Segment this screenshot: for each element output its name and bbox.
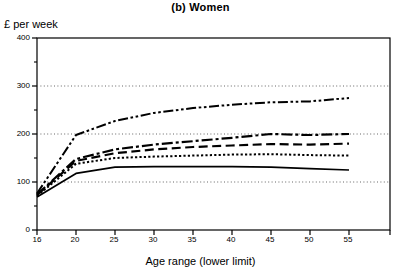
x-axis-ticks (37, 230, 390, 235)
data-line-series-2 (37, 134, 349, 195)
chart-svg (0, 0, 401, 277)
y-axis-ticks (32, 38, 37, 230)
chart-container: (b) Women £ per week Age range (lower li… (0, 0, 401, 277)
data-line-series-3 (37, 144, 349, 195)
data-line-series-1 (37, 98, 349, 194)
